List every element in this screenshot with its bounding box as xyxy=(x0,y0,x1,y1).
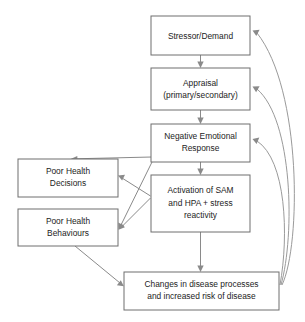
edge-activation-to-behaviours xyxy=(119,198,151,230)
node-poor-health-decisions-line1: Poor Health xyxy=(46,166,91,176)
node-poor-health-behaviours-line1: Poor Health xyxy=(46,216,91,226)
flowchart-canvas: Stressor/Demand Appraisal (primary/secon… xyxy=(0,0,305,322)
node-activation-sam-hpa-line2: and HPA + stress xyxy=(168,198,232,208)
node-activation-sam-hpa-line3: reactivity xyxy=(184,210,218,220)
node-changes-in-disease[interactable]: Changes in disease processes and increas… xyxy=(124,272,279,310)
edge-activation-to-changes xyxy=(197,232,203,272)
node-changes-in-disease-line1: Changes in disease processes xyxy=(144,279,258,289)
edge-stressor-to-appraisal xyxy=(197,55,203,68)
edge-appraisal-to-negative xyxy=(197,110,203,124)
edge-behaviours-to-changes xyxy=(75,246,124,286)
node-poor-health-decisions[interactable]: Poor Health Decisions xyxy=(18,159,118,197)
node-stressor-demand-line1: Stressor/Demand xyxy=(168,31,234,41)
node-stressor-demand[interactable]: Stressor/Demand xyxy=(151,16,250,55)
node-negative-emotional-response[interactable]: Negative Emotional Response xyxy=(151,124,250,162)
node-negative-emotional-response-line2: Response xyxy=(182,143,220,153)
node-appraisal-line2: (primary/secondary) xyxy=(163,90,238,100)
node-changes-in-disease-line2: and increased risk of disease xyxy=(147,291,256,301)
stress-disease-flowchart: Stressor/Demand Appraisal (primary/secon… xyxy=(0,0,305,322)
edge-activation-to-decisions xyxy=(118,175,151,196)
node-poor-health-decisions-line2: Decisions xyxy=(50,178,86,188)
node-activation-sam-hpa[interactable]: Activation of SAM and HPA + stress react… xyxy=(151,175,250,232)
edge-negative-to-activation xyxy=(197,162,203,175)
node-activation-sam-hpa-line1: Activation of SAM xyxy=(167,185,233,195)
node-poor-health-behaviours-line2: Behaviours xyxy=(47,228,89,238)
edge-changes-to-negative xyxy=(253,138,285,285)
edge-changes-to-stressor xyxy=(253,30,295,285)
nodes-layer: Stressor/Demand Appraisal (primary/secon… xyxy=(18,16,279,310)
node-appraisal-line1: Appraisal xyxy=(183,78,218,88)
node-poor-health-behaviours[interactable]: Poor Health Behaviours xyxy=(18,209,118,246)
edge-negative-to-behaviours xyxy=(118,161,152,230)
node-negative-emotional-response-line1: Negative Emotional xyxy=(164,131,237,141)
node-appraisal[interactable]: Appraisal (primary/secondary) xyxy=(151,68,250,110)
